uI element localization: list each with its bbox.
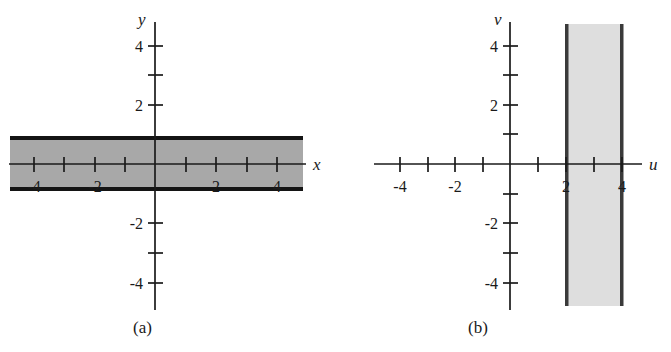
panel-a-caption: (a) — [133, 318, 152, 338]
y-tick-label-minus-4: -4 — [130, 275, 143, 292]
panel-b-caption: (b) — [468, 318, 488, 338]
panel-b-uv-plane: -4 -2 2 4 4 2 -2 -4 u v — [336, 0, 671, 352]
u-axis-label: u — [649, 155, 658, 174]
x-tick-label-minus-4: -4 — [27, 178, 40, 195]
y-tick-label-2: 2 — [135, 97, 143, 114]
u-tick-label-minus-2: -2 — [448, 178, 461, 195]
v-tick-label-2: 2 — [490, 97, 498, 114]
figure-two-coordinate-planes: -4 -2 2 4 4 2 -2 -4 x y — [0, 0, 671, 352]
x-tick-label-4: 4 — [273, 178, 281, 195]
x-tick-label-minus-2: -2 — [88, 178, 101, 195]
u-tick-label-4: 4 — [618, 178, 626, 195]
u-tick-label-minus-4: -4 — [393, 178, 406, 195]
panel-a-plot: -4 -2 2 4 4 2 -2 -4 x y — [0, 0, 336, 352]
boundary-line-y-equals-minus-1 — [10, 187, 303, 191]
u-tick-label-2: 2 — [562, 178, 570, 195]
y-axis-label: y — [136, 10, 146, 29]
y-tick-label-4: 4 — [135, 38, 143, 55]
v-tick-label-minus-4: -4 — [485, 275, 498, 292]
boundary-line-y-equals-1 — [10, 136, 303, 140]
v-axis-label: v — [494, 10, 502, 29]
v-tick-label-minus-2: -2 — [485, 215, 498, 232]
v-tick-label-4: 4 — [490, 38, 498, 55]
y-tick-label-minus-2: -2 — [130, 215, 143, 232]
panel-a-xy-plane: -4 -2 2 4 4 2 -2 -4 x y — [0, 0, 336, 352]
x-tick-label-2: 2 — [212, 178, 220, 195]
x-axis-label: x — [312, 155, 321, 174]
panel-b-plot: -4 -2 2 4 4 2 -2 -4 u v — [336, 0, 671, 352]
